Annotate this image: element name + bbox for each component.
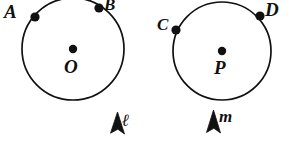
center-label-p: P [214,58,226,77]
point-dot-a [30,12,39,21]
geometry-figure: A B O C D P ℓ m [0,0,288,145]
marker-label-m: m [219,108,232,125]
point-label-c: C [157,16,168,33]
center-dot-p [218,47,226,55]
geometry-canvas [0,0,288,145]
point-dot-b [94,3,103,12]
point-label-a: A [4,2,17,21]
center-dot-o [69,45,77,53]
marker-label-l: ℓ [122,112,129,129]
point-label-b: B [104,0,115,13]
point-dot-c [171,25,180,34]
center-label-o: O [64,57,78,76]
point-dot-d [255,11,264,20]
point-label-d: D [265,0,279,19]
